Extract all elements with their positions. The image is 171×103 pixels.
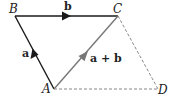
point-label-c: C — [113, 2, 122, 16]
point-label-d: D — [157, 83, 168, 97]
vector-label-b: b — [64, 0, 72, 13]
point-label-a: A — [41, 82, 51, 96]
vector-label-sum: a + b — [90, 52, 122, 65]
vector-label-a: a — [22, 47, 29, 60]
vector-diagram: B C A D b a a + b — [0, 0, 171, 103]
point-label-b: B — [8, 2, 18, 16]
dashed-edge-cd — [118, 16, 158, 89]
